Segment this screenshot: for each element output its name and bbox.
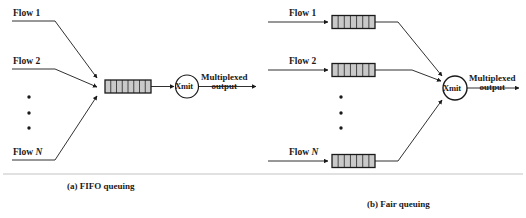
panel-a-queue-box (105, 80, 151, 93)
panel-b-output-label: Multiplexed output (469, 74, 516, 93)
panel-a-output-label-line2: output (201, 82, 248, 91)
panel-a-caption: (a) FIFO queuing (67, 181, 135, 191)
panel-b-queue-2-to-node-arrow (375, 70, 441, 81)
panel-b-queue-box-n (332, 155, 375, 168)
panel-b-flow-1-label: Flow 1 (289, 9, 316, 19)
panel-b-queue-box-2 (332, 64, 375, 77)
panel-a-flow-n-label: Flow N (13, 148, 42, 158)
panel-a-ellipsis-dots (27, 95, 30, 129)
panel-b-output-label-line2: output (469, 83, 516, 92)
panel-a-flow-2-arrow (12, 69, 97, 87)
panel-b-flow-n-label: Flow N (289, 148, 318, 158)
panel-b-queue-box-1 (332, 16, 375, 29)
panel-b-xmit-label: Xmit (443, 84, 461, 93)
panel-b-ellipsis-dots (339, 95, 342, 129)
panel-b-flow-2-label: Flow 2 (289, 57, 316, 67)
panel-b-caption: (b) Fair queuing (367, 199, 430, 209)
panel-a-flow-1-label: Flow 1 (13, 9, 40, 19)
panel-a-output-label: Multiplexed output (201, 73, 248, 92)
figure-container: Flow 1 Flow 2 Flow N Xmit Multiplexed ou… (0, 0, 526, 218)
panel-a-xmit-label: Xmit (175, 82, 193, 91)
panel-b-queue-1-to-node-arrow (375, 22, 442, 76)
panel-a-flow-2-label: Flow 2 (13, 57, 40, 67)
panel-b-queue-n-to-node-arrow (375, 100, 442, 161)
